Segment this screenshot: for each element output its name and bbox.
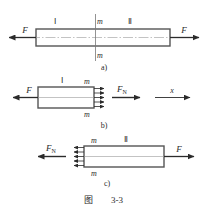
panel-label-b: b)	[101, 121, 108, 130]
section-label-bottom-a: m	[97, 51, 103, 60]
internal-force-label-c: FN	[45, 143, 57, 154]
axis-label-b: x	[169, 86, 174, 95]
force-right-label-c: F	[175, 144, 182, 154]
region-label-I-b: Ⅰ	[61, 76, 63, 85]
panel-c: FN F Ⅱ m m c)	[38, 135, 194, 188]
figure-3-3: F F Ⅰ Ⅱ m m a) F	[0, 0, 210, 211]
region-label-II-c: Ⅱ	[124, 135, 128, 144]
distributed-arrows-b	[94, 89, 104, 107]
internal-force-label-b: FN	[116, 84, 128, 95]
panel-b: F FN x Ⅰ m m b)	[13, 76, 190, 130]
force-left-label-a: F	[21, 25, 28, 35]
region-label-I-a: Ⅰ	[54, 17, 56, 26]
force-right-label-a: F	[180, 25, 187, 35]
caption-number: 3-3	[111, 195, 123, 205]
panel-a: F F Ⅰ Ⅱ m m a)	[9, 14, 199, 72]
distributed-arrows-c	[74, 148, 84, 166]
panel-label-c: c)	[104, 179, 111, 188]
force-left-label-b: F	[25, 85, 32, 95]
caption-prefix: 图	[84, 195, 93, 205]
region-label-II-a: Ⅱ	[128, 17, 132, 26]
section-label-top-c: m	[91, 136, 97, 145]
section-label-bottom-b: m	[84, 110, 90, 119]
section-label-top-a: m	[97, 17, 103, 26]
section-label-top-b: m	[84, 77, 90, 86]
figure-canvas: F F Ⅰ Ⅱ m m a) F	[0, 0, 210, 211]
panel-label-a: a)	[101, 63, 108, 72]
section-label-bottom-c: m	[91, 169, 97, 178]
bar-a	[36, 29, 170, 46]
figure-caption: 图 3-3	[84, 195, 124, 205]
